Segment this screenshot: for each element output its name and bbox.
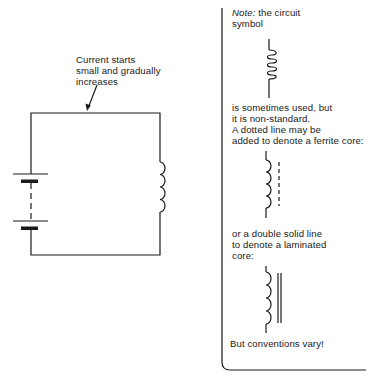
note-closing: But conventions vary! [230, 339, 324, 350]
ferrite-core-inductor-icon [266, 151, 279, 218]
note-label: Note: [232, 7, 255, 18]
note-para2-line-1: or a double solid line [232, 229, 322, 240]
diagram-canvas [0, 0, 379, 383]
note-box-border [222, 8, 366, 370]
circuit-wires [31, 113, 160, 255]
note-para1-line-2: it is non-standard. [232, 114, 310, 125]
note-intro-2: symbol [232, 19, 263, 30]
inductor-coil-icon [160, 162, 165, 212]
battery-icon [13, 174, 48, 230]
note-para2-line-3: core: [232, 251, 254, 262]
current-arrow-icon [86, 85, 98, 111]
current-annotation-line-1: Current starts [76, 55, 136, 66]
note-heading: Note: the circuit [232, 8, 300, 19]
helix-inductor-symbol-icon [268, 39, 277, 98]
current-annotation-line-2: small and gradually [76, 66, 161, 77]
note-para1-line-1: is sometimes used, but [232, 103, 332, 114]
note-intro: the circuit [258, 7, 300, 18]
laminated-core-inductor-icon [266, 266, 281, 333]
note-para2-line-2: to denote a laminated [232, 240, 326, 251]
note-para1-line-3: A dotted line may be [232, 125, 321, 136]
current-annotation-line-3: increases [76, 77, 118, 88]
note-para1-line-4: added to denote a ferrite core: [232, 136, 364, 147]
